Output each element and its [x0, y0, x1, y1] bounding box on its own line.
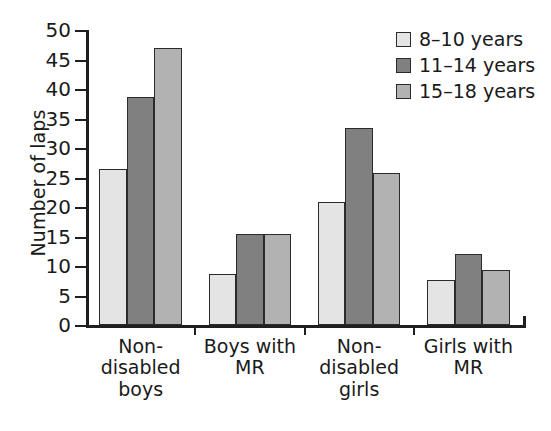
y-axis-tick-label: 35: [46, 107, 71, 131]
y-axis-tick: [75, 296, 86, 298]
y-axis-tick-label: 30: [46, 136, 71, 160]
y-axis-tick: [75, 178, 86, 180]
legend-swatch-icon: [396, 84, 411, 99]
chart-legend: 8–10 years11–14 years15–18 years: [396, 27, 535, 105]
x-axis-separator-tick: [413, 325, 415, 335]
x-axis-category-label: Non- disabled boys: [86, 336, 195, 400]
y-axis-tick-label: 5: [58, 284, 71, 308]
legend-item: 11–14 years: [396, 53, 535, 77]
bar: [427, 280, 455, 325]
x-axis-line: [86, 325, 526, 328]
y-axis-tick-label: 10: [46, 254, 71, 278]
y-axis-tick-label: 40: [46, 77, 71, 101]
x-axis-category-label: Non- disabled girls: [305, 336, 414, 400]
y-axis-tick: [75, 89, 86, 91]
x-axis-separator-tick: [194, 325, 196, 335]
y-axis-tick-label: 45: [46, 48, 71, 72]
y-axis-tick: [75, 119, 86, 121]
y-axis-tick-label: 0: [58, 313, 71, 337]
y-axis-tick: [75, 60, 86, 62]
legend-item: 8–10 years: [396, 27, 535, 51]
legend-label: 15–18 years: [419, 80, 535, 102]
y-axis-tick: [75, 237, 86, 239]
y-axis-tick-label: 25: [46, 166, 71, 190]
bar: [345, 128, 373, 325]
bar: [482, 270, 510, 325]
bar: [127, 97, 155, 325]
legend-label: 8–10 years: [419, 28, 523, 50]
bar-chart: Number of laps 05101520253035404550 Non-…: [0, 0, 551, 431]
y-axis-tick: [75, 266, 86, 268]
bar: [154, 48, 182, 325]
bar: [318, 202, 346, 325]
bar: [99, 169, 127, 325]
y-axis-tick-label: 15: [46, 225, 71, 249]
y-axis-tick: [75, 148, 86, 150]
legend-swatch-icon: [396, 58, 411, 73]
legend-item: 15–18 years: [396, 79, 535, 103]
bar: [455, 254, 483, 325]
legend-swatch-icon: [396, 32, 411, 47]
bar: [264, 234, 292, 325]
bar: [373, 173, 401, 325]
x-axis-end-cap: [523, 316, 526, 328]
y-axis-tick-label: 50: [46, 18, 71, 42]
x-axis-category-label: Girls with MR: [414, 336, 523, 379]
legend-label: 11–14 years: [419, 54, 535, 76]
y-axis-tick-label: 20: [46, 195, 71, 219]
y-axis-tick: [75, 30, 86, 32]
x-axis-separator-tick: [304, 325, 306, 335]
bar: [236, 234, 264, 325]
y-axis-tick: [75, 207, 86, 209]
x-axis-category-label: Boys with MR: [195, 336, 304, 379]
bar: [209, 274, 237, 325]
y-axis-tick: [75, 325, 86, 327]
